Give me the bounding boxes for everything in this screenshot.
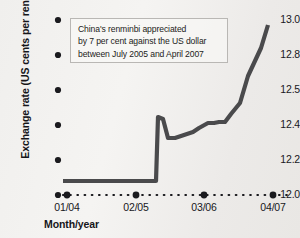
chart-container: Exchange rate (US cents per renminbi) 13… [0, 0, 300, 238]
annotation-line-1: China's renminbi appreciated [78, 23, 221, 35]
x-tick-label-03-06: 03/06 [182, 201, 226, 213]
y-axis-title: Exchange rate (US cents per renminbi) [15, 0, 35, 159]
y-tick-label-13-0: 13.0 [266, 13, 300, 25]
x-tick-label-01-04: 01/04 [45, 201, 89, 213]
y-tick-label-12-8: 12.8 [266, 48, 300, 60]
annotation-line-2: by 7 per cent against the US dollar [78, 35, 221, 47]
y-tick-label-12-5: 12.5 [266, 83, 300, 95]
y-tick-label-12-2: 12.2 [266, 153, 300, 165]
y-axis-tick-dots [55, 17, 61, 198]
y-tick-label-12-0: 12.0 [266, 188, 300, 200]
annotation-callout: China's renminbi appreciated by 7 per ce… [70, 18, 228, 63]
x-axis-title: Month/year [44, 218, 99, 230]
y-tick-label-12-4: 12.4 [266, 118, 300, 130]
y-axis-title-text: Exchange rate (US cents per renminbi) [19, 0, 31, 159]
x-tick-label-02-05: 02/05 [114, 201, 158, 213]
x-tick-label-04-07: 04/07 [251, 201, 295, 213]
annotation-line-3: between July 2005 and April 2007 [78, 48, 221, 60]
